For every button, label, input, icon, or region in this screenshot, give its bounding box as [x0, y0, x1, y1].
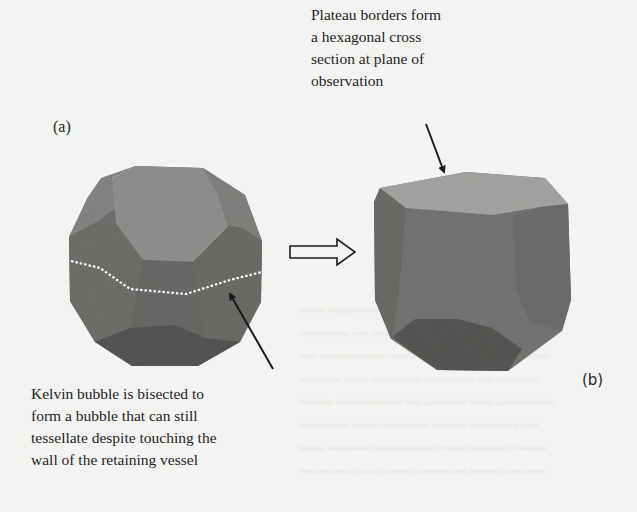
annotation-line: tessellate despite touching the: [31, 427, 217, 449]
annotation-line: Kelvin bubble is bisected to: [31, 383, 217, 405]
annotation-line: observation: [311, 70, 441, 92]
bisected-bubble-shape: [374, 172, 571, 371]
pointer-arrow-top: [426, 124, 444, 172]
annotation-line: form a bubble that can still: [31, 405, 217, 427]
annotation-line: Plateau borders form: [311, 4, 441, 26]
annotation-plateau-borders: Plateau borders form a hexagonal cross s…: [311, 4, 441, 92]
annotation-line: section at plane of: [311, 48, 441, 70]
kelvin-bubble-shape: [69, 166, 262, 366]
transition-arrow-icon: [290, 239, 355, 265]
panel-label-a: (a): [53, 118, 71, 136]
annotation-kelvin-bisected: Kelvin bubble is bisected to form a bubb…: [31, 383, 217, 471]
annotation-line: a hexagonal cross: [311, 26, 441, 48]
annotation-line: wall of the retaining vessel: [31, 449, 217, 471]
panel-label-b: (b): [582, 371, 603, 389]
